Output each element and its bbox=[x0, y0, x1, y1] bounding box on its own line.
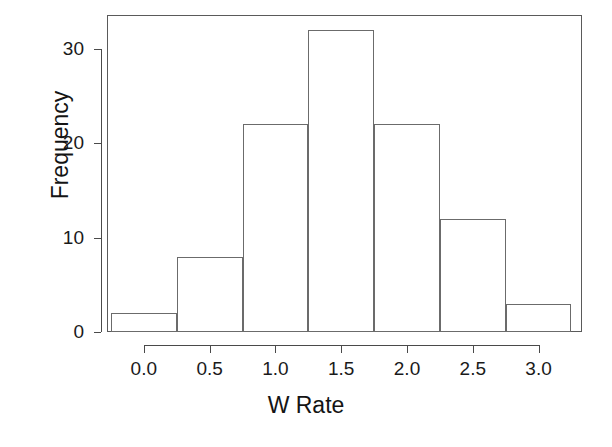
y-axis-tick bbox=[94, 49, 101, 50]
y-axis-tick bbox=[94, 332, 101, 333]
x-axis-tick-label: 2.5 bbox=[443, 358, 503, 379]
x-axis-title: W Rate bbox=[0, 392, 612, 418]
x-axis-tick bbox=[144, 345, 145, 353]
bars-layer bbox=[107, 15, 582, 332]
x-axis-tick bbox=[341, 345, 342, 353]
x-axis-tick bbox=[275, 345, 276, 353]
histogram-bar bbox=[111, 313, 177, 332]
histogram-bar bbox=[506, 304, 572, 332]
x-axis-tick bbox=[210, 345, 211, 353]
histogram-bar bbox=[177, 257, 243, 332]
y-axis-tick-label: 0 bbox=[38, 322, 84, 341]
x-axis-tick bbox=[407, 345, 408, 353]
y-axis-title: Frequency bbox=[47, 45, 73, 245]
x-axis-tick bbox=[473, 345, 474, 353]
y-axis-tick bbox=[94, 238, 101, 239]
x-axis-tick-label: 2.0 bbox=[377, 358, 437, 379]
histogram-bar bbox=[374, 124, 440, 332]
x-axis-tick-label: 3.0 bbox=[509, 358, 569, 379]
y-axis-tick bbox=[94, 143, 101, 144]
histogram-bar bbox=[440, 219, 506, 332]
histogram-bar bbox=[243, 124, 309, 332]
x-axis-tick bbox=[539, 345, 540, 353]
y-axis-line bbox=[101, 49, 102, 332]
histogram-bar bbox=[308, 30, 374, 332]
histogram-figure: 0102030 Frequency 0.00.51.01.52.02.53.0 … bbox=[0, 0, 612, 447]
x-axis-tick-label: 1.0 bbox=[245, 358, 305, 379]
x-axis-tick-label: 1.5 bbox=[311, 358, 371, 379]
x-axis-tick-label: 0.0 bbox=[114, 358, 174, 379]
x-axis-tick-label: 0.5 bbox=[180, 358, 240, 379]
